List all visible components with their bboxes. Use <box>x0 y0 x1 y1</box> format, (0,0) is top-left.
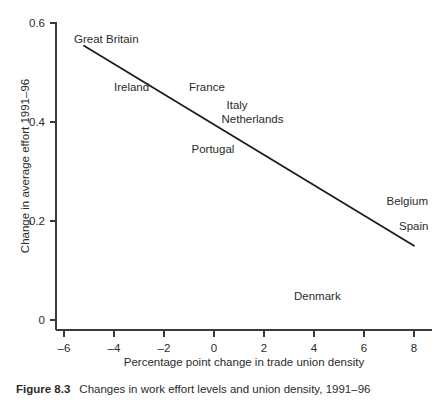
country-label-france: France <box>189 82 225 94</box>
y-tick-label: 0.4 <box>29 116 46 128</box>
x-tick-label: 0 <box>211 342 217 354</box>
x-tick-label: 8 <box>411 342 417 354</box>
regression-line <box>84 46 414 246</box>
country-label-belgium: Belgium <box>387 196 429 208</box>
chart-plot-area: 00.20.40.6 –6–4–202468 Great BritainIrel… <box>0 0 442 372</box>
x-tick-label: –2 <box>158 342 171 354</box>
axes-group <box>56 22 432 330</box>
x-tick-label: –4 <box>108 342 121 354</box>
y-tick-label: 0.2 <box>29 215 45 227</box>
country-label-italy: Italy <box>227 100 248 112</box>
figure-caption-number: Figure 8.3 <box>16 383 70 395</box>
y-tick-label: 0.6 <box>29 17 45 29</box>
x-tick-label: –6 <box>58 342 71 354</box>
x-axis-ticks: –6–4–202468 <box>58 330 418 354</box>
trend-line-series <box>84 46 414 246</box>
country-label-netherlands: Netherlands <box>222 114 284 126</box>
x-axis-title: Percentage point change in trade union d… <box>56 356 432 368</box>
x-tick-label: 2 <box>261 342 267 354</box>
y-axis-title: Change in average effort 1991–96 <box>19 56 31 276</box>
country-label-denmark: Denmark <box>294 291 341 303</box>
country-label-ireland: Ireland <box>114 82 149 94</box>
y-tick-label: 0 <box>39 314 45 326</box>
figure-caption: Figure 8.3Changes in work effort levels … <box>16 383 370 395</box>
figure-container: 00.20.40.6 –6–4–202468 Great BritainIrel… <box>0 0 442 404</box>
x-tick-label: 4 <box>311 342 318 354</box>
country-label-portugal: Portugal <box>192 144 235 156</box>
x-tick-label: 6 <box>361 342 367 354</box>
y-axis-ticks: 00.20.40.6 <box>29 17 56 326</box>
country-label-great-britain: Great Britain <box>74 34 139 46</box>
chart-svg: 00.20.40.6 –6–4–202468 <box>0 0 442 372</box>
figure-caption-text: Changes in work effort levels and union … <box>79 383 370 395</box>
country-label-spain: Spain <box>399 221 428 233</box>
